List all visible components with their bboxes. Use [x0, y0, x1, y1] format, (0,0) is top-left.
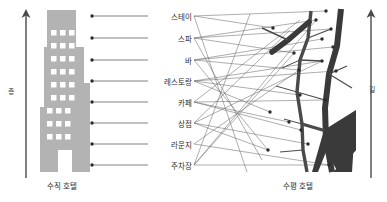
caption-horizontal-hotel: 수평 호텔	[283, 180, 313, 191]
program-label: 카페	[150, 97, 192, 108]
program-label: 스테이	[150, 11, 192, 22]
program-label: 주차장	[150, 160, 192, 171]
axis-arrow-right	[367, 9, 376, 178]
vertical-leader-nodes	[90, 14, 93, 166]
axis-label-street: 길	[366, 86, 376, 93]
building-windows	[47, 30, 75, 140]
caption-vertical-hotel: 수직 호텔	[47, 180, 77, 191]
diagram-canvas	[0, 0, 387, 202]
program-label: 라운지	[150, 139, 192, 150]
diagram-figure: 층 길 스테이스파바레스토랑카페상점라운지주차장 수직 호텔 수평 호텔	[0, 0, 387, 202]
axis-arrow-left	[22, 9, 31, 178]
program-label: 레스토랑	[150, 76, 192, 87]
vertical-hotel-building	[40, 10, 90, 172]
axis-label-floor: 층	[5, 88, 15, 95]
program-label: 스파	[150, 33, 192, 44]
program-label: 상점	[150, 118, 192, 129]
horizontal-hotel-block	[312, 110, 356, 172]
vertical-leader-lines	[92, 16, 148, 165]
program-label: 바	[150, 55, 192, 66]
